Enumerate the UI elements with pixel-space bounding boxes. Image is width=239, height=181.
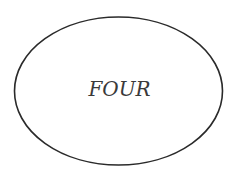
- ellipse-label: FOUR: [0, 77, 239, 101]
